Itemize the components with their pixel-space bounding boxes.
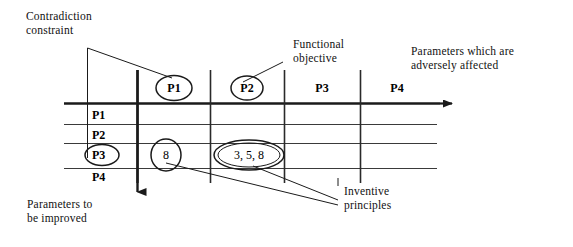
column-header-p2[interactable]: P2 (228, 81, 266, 96)
row-header-p3[interactable]: P3 (92, 148, 105, 163)
column-header-p4[interactable]: P4 (378, 81, 416, 96)
row-header-p2[interactable]: P2 (92, 128, 105, 143)
cell-p3-p2[interactable]: 3, 5, 8 (219, 148, 279, 163)
column-header-p1[interactable]: P1 (154, 81, 194, 96)
leader-functional-objective (243, 62, 283, 82)
row-header-p4[interactable]: P4 (92, 170, 105, 185)
annotation-inventive-principles: Inventive principles (344, 185, 391, 212)
annotation-adversely-affected: Parameters which are adversely affected (411, 45, 514, 72)
annotation-parameters-to-be-improved: Parameters to be improved (27, 198, 93, 225)
cell-p3-p1[interactable]: 8 (146, 148, 186, 163)
annotation-functional-objective: Functional objective (293, 38, 344, 65)
annotation-contradiction-constraint: Contradiction constraint (26, 10, 92, 37)
column-header-p3[interactable]: P3 (303, 81, 341, 96)
row-header-p1[interactable]: P1 (92, 108, 105, 123)
diagram-canvas: Contradiction constraint Functional obje… (0, 0, 573, 247)
